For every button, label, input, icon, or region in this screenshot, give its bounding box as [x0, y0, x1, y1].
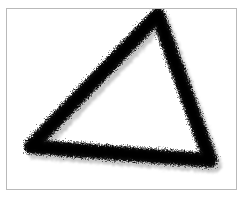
drawing-surface [7, 9, 236, 189]
image-frame: Brush Triangle triangle brush-stroke ske… [6, 8, 237, 190]
canvas-root: Brush Triangle triangle brush-stroke ske… [0, 0, 244, 197]
